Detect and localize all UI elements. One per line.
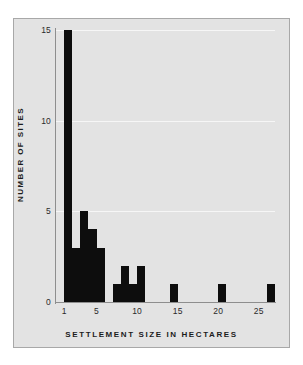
y-axis-title: NUMBER OF SITES [16, 75, 25, 235]
bar [137, 266, 145, 302]
bar [218, 284, 226, 302]
x-tick-label: 5 [94, 306, 99, 316]
bar [129, 284, 137, 302]
figure-root: 051015 1510152025 SETTLEMENT SIZE IN HEC… [0, 0, 303, 365]
x-tick-label: 20 [213, 306, 223, 316]
plot-area [56, 30, 275, 302]
x-axis-title: SETTLEMENT SIZE IN HECTARES [0, 330, 303, 339]
bar [113, 284, 121, 302]
bar [88, 229, 96, 302]
x-tick-label: 15 [173, 306, 183, 316]
y-tick-label: 10 [41, 116, 51, 126]
x-axis-line [55, 302, 276, 303]
bar [121, 266, 129, 302]
bar [170, 284, 178, 302]
x-axis-tick-labels: 1510152025 [0, 306, 303, 320]
bar [72, 248, 80, 302]
gridline [56, 30, 275, 31]
y-tick-label: 15 [41, 25, 51, 35]
gridline [56, 121, 275, 122]
bar [267, 284, 275, 302]
x-tick-label: 25 [254, 306, 264, 316]
gridline [56, 211, 275, 212]
x-tick-label: 10 [132, 306, 142, 316]
bar [97, 248, 105, 302]
x-tick-label: 1 [62, 306, 67, 316]
y-tick-label: 5 [46, 206, 51, 216]
bar [80, 211, 88, 302]
bar [64, 30, 72, 302]
